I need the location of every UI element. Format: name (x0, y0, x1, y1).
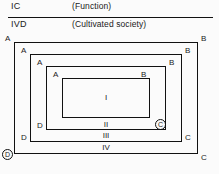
rectangle-i-corner-b: B (141, 71, 147, 79)
rectangle-iii-corner-b: B (185, 47, 191, 55)
rectangle-ii-corner-c-circled: C (155, 119, 166, 130)
header-value-cultivated-society: (Cultivated society) (72, 19, 146, 29)
rectangle-iv-corner-c: C (201, 154, 207, 162)
rectangle-iv-corner-a: A (5, 35, 11, 43)
header-value-function: (Function) (72, 1, 111, 11)
rectangle-ii-corner-a: A (37, 59, 43, 67)
header-row-ic: IC (Function) (0, 1, 219, 17)
rectangle-i-roman-numeral: I (86, 94, 126, 102)
header-key-ic: IC (11, 1, 20, 11)
rectangle-iii-roman-numeral: III (86, 132, 126, 140)
rectangle-iii-corner-a: A (21, 47, 27, 55)
rectangle-ii-roman-numeral: II (86, 121, 126, 129)
header-table: IC (Function) IVD (Cultivated society) (0, 0, 219, 36)
diagram-page: IC (Function) IVD (Cultivated society) A… (0, 0, 219, 174)
rectangle-i-corner-a: A (53, 71, 59, 79)
header-row-ivd: IVD (Cultivated society) (0, 19, 219, 35)
rectangle-ii-corner-d: D (37, 122, 43, 130)
rectangle-iii-corner-c: C (185, 134, 191, 142)
rectangle-iv-corner-b: B (201, 35, 207, 43)
header-divider (8, 17, 213, 18)
nested-rectangles-diagram: A B C D IV A B C D III A B C D II A B I (0, 36, 219, 174)
rectangle-ii-corner-b: B (169, 59, 175, 67)
rectangle-iv-corner-d-circled: D (2, 149, 13, 160)
header-key-ivd: IVD (11, 19, 27, 29)
rectangle-iv-roman-numeral: IV (86, 144, 126, 152)
rectangle-iii-corner-d: D (21, 134, 27, 142)
